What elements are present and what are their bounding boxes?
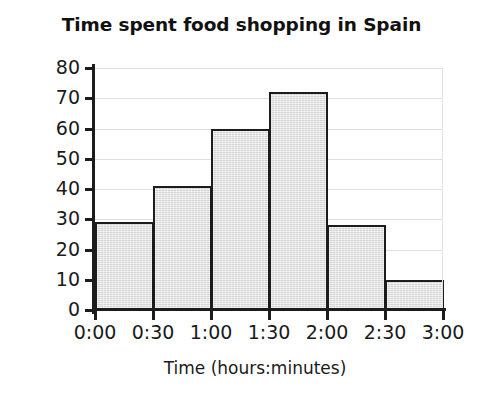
x-axis-title: Time (hours:minutes): [60, 358, 450, 378]
y-tick-50: [85, 158, 95, 161]
bar: [95, 222, 154, 310]
x-tick-3: [268, 311, 271, 320]
y-tick-label: 30: [30, 209, 80, 228]
chart-title: Time spent food shopping in Spain: [0, 14, 483, 35]
y-tick-label: 80: [30, 58, 80, 77]
y-tick-label: 50: [30, 149, 80, 168]
y-tick-label: 40: [30, 179, 80, 198]
y-tick-70: [85, 97, 95, 100]
bar: [327, 225, 386, 310]
plot-frame-right-edge: [442, 68, 443, 310]
y-tick-20: [85, 249, 95, 252]
y-tick-60: [85, 128, 95, 131]
x-tick-6: [442, 311, 445, 320]
y-tick-10: [85, 279, 95, 282]
y-tick-label: 60: [30, 119, 80, 138]
x-tick-0: [94, 311, 97, 320]
y-tick-label: 10: [30, 270, 80, 289]
y-tick-80: [85, 67, 95, 70]
y-tick-40: [85, 188, 95, 191]
y-tick-label: 0: [30, 300, 80, 319]
histogram-figure: Time spent food shopping in Spain Freque…: [0, 0, 483, 394]
x-tick-1: [152, 311, 155, 320]
x-tick-4: [326, 311, 329, 320]
y-tick-label: 70: [30, 88, 80, 107]
bar: [385, 280, 444, 310]
x-tick-label: 3:00: [407, 322, 479, 342]
x-tick-5: [384, 311, 387, 320]
y-tick-label: 20: [30, 240, 80, 259]
gridline-80: [95, 68, 443, 69]
bar: [211, 129, 270, 311]
y-tick-30: [85, 218, 95, 221]
x-tick-2: [210, 311, 213, 320]
plot-area: [95, 68, 443, 310]
bar: [269, 92, 328, 310]
bar: [153, 186, 212, 310]
